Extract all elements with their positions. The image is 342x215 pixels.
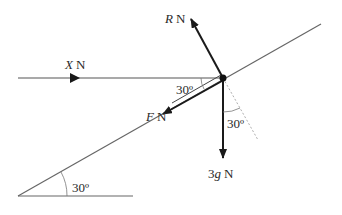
friction-angle-arc bbox=[201, 78, 204, 89]
x-force-label: XN bbox=[64, 57, 86, 72]
friction-angle-label: 30º bbox=[176, 82, 193, 97]
x-force-arrowhead-icon bbox=[70, 73, 80, 83]
friction-label: FN bbox=[145, 109, 167, 124]
weight-label: 3gN bbox=[208, 166, 234, 181]
weight-angle-arc bbox=[223, 108, 240, 112]
incline-angle-arc bbox=[61, 172, 67, 196]
particle-dot bbox=[220, 75, 227, 82]
reaction-arrow bbox=[191, 19, 223, 78]
reaction-label: RN bbox=[164, 11, 186, 26]
force-diagram: 30º XN RN FN 30º 3gN 30º bbox=[0, 0, 342, 215]
incline-angle-label: 30º bbox=[72, 180, 89, 195]
weight-angle-label: 30º bbox=[227, 116, 244, 131]
